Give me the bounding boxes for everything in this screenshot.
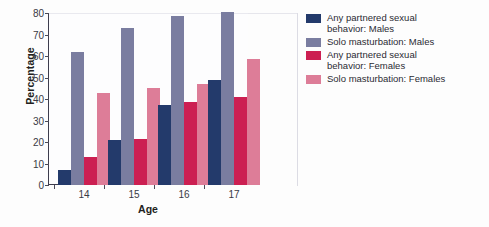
x-axis-tick-label: 14 <box>69 189 99 200</box>
legend-label: Any partnered sexualbehavior: Males <box>327 12 417 34</box>
legend-swatch <box>306 14 321 23</box>
bar-group <box>108 13 160 185</box>
bar <box>234 97 247 185</box>
bar <box>58 170 71 185</box>
bar <box>247 59 260 185</box>
x-axis-tick-label: 15 <box>119 189 149 200</box>
bar <box>134 139 147 185</box>
legend-label: Any partnered sexualbehavior: Females <box>327 49 417 71</box>
y-axis-tick-mark <box>45 185 49 186</box>
bar <box>121 28 134 185</box>
legend-item[interactable]: Any partnered sexualbehavior: Females <box>306 49 482 71</box>
y-axis-tick-label: 20 <box>0 137 44 148</box>
y-axis-tick-label: 10 <box>0 158 44 169</box>
x-axis-tick-mark <box>104 185 105 189</box>
legend-label: Solo masturbation: Females <box>327 73 445 84</box>
bar-group <box>58 13 110 185</box>
bar-group <box>208 13 260 185</box>
y-axis-tick-label: 80 <box>0 8 44 19</box>
x-axis-title: Age <box>48 203 248 215</box>
legend-item[interactable]: Solo masturbation: Males <box>306 36 482 47</box>
legend: Any partnered sexualbehavior: MalesSolo … <box>306 12 482 86</box>
bar <box>84 157 97 185</box>
x-axis-tick-mark <box>204 185 205 189</box>
bar-chart-figure: Percentage 01020304050607080 14151617 Ag… <box>0 0 489 227</box>
bar <box>184 102 197 185</box>
bar <box>171 16 184 185</box>
bar <box>208 80 221 185</box>
y-axis-tick-label: 30 <box>0 115 44 126</box>
y-axis-tick-label: 0 <box>0 180 44 191</box>
legend-swatch <box>306 51 321 60</box>
bar <box>158 105 171 185</box>
legend-item[interactable]: Any partnered sexualbehavior: Males <box>306 12 482 34</box>
legend-label: Solo masturbation: Males <box>327 36 434 47</box>
bar <box>108 140 121 185</box>
y-axis-tick-label: 70 <box>0 29 44 40</box>
x-axis-tick-mark <box>54 185 55 189</box>
y-axis-tick-label: 60 <box>0 51 44 62</box>
legend-swatch <box>306 38 321 47</box>
y-axis-tick-label: 50 <box>0 72 44 83</box>
bar <box>221 12 234 185</box>
x-axis-tick-mark <box>154 185 155 189</box>
bars-layer <box>48 13 298 185</box>
x-axis-tick-label: 16 <box>169 189 199 200</box>
legend-swatch <box>306 75 321 84</box>
y-axis-tick-label: 40 <box>0 94 44 105</box>
bar <box>71 52 84 185</box>
x-axis-tick-label: 17 <box>219 189 249 200</box>
bar-group <box>158 13 210 185</box>
legend-item[interactable]: Solo masturbation: Females <box>306 73 482 84</box>
